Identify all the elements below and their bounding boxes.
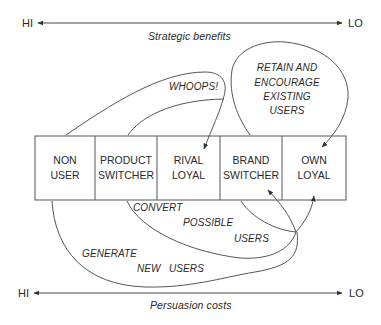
segment-line1: PRODUCT	[100, 153, 152, 168]
segment-line1: OWN	[301, 153, 327, 168]
segment-own-loyal: OWN LOYAL	[282, 136, 346, 200]
generate-label-2: NEW	[137, 263, 161, 274]
convert-from-brand	[241, 201, 296, 232]
segment-brand-switcher: BRAND SWITCHER	[220, 136, 282, 200]
retain-label-1: RETAIN AND	[250, 62, 324, 73]
generate-label-1: GENERATE	[82, 248, 137, 259]
segment-line1: RIVAL	[174, 153, 204, 168]
convert-label-3: USERS	[234, 233, 269, 244]
segment-rival-loyal: RIVAL LOYAL	[157, 136, 220, 200]
bottom-axis-title: Persuasion costs	[150, 299, 232, 311]
whoops-label: WHOOPS!	[169, 81, 218, 92]
top-axis-title: Strategic benefits	[148, 30, 231, 42]
segment-line2: SWITCHER	[98, 168, 154, 183]
segment-line2: SWITCHER	[223, 168, 279, 183]
segment-line1: NON	[53, 153, 76, 168]
convert-label-1: CONVERT	[133, 202, 182, 213]
segment-line2: LOYAL	[297, 168, 330, 183]
bottom-axis-lo-label: LO	[349, 287, 364, 299]
top-axis-hi-label: HI	[22, 17, 33, 29]
generate-label-3: USERS	[169, 263, 204, 274]
retain-label-3: EXISTING	[250, 91, 324, 102]
bottom-axis-hi-label: HI	[18, 287, 29, 299]
segment-non-user: NON USER	[35, 136, 95, 200]
top-axis-lo-label: LO	[348, 17, 363, 29]
retain-label-4: USERS	[250, 105, 324, 116]
convert-label-2: POSSIBLE	[183, 217, 233, 228]
segment-line2: LOYAL	[172, 168, 205, 183]
convert-arrow-to-own	[296, 196, 314, 232]
segment-product-switcher: PRODUCT SWITCHER	[95, 136, 157, 200]
generate-curve	[52, 201, 298, 287]
whoops-curve-inner	[128, 99, 224, 135]
segment-line2: USER	[50, 168, 79, 183]
retain-label-2: ENCOURAGE	[250, 77, 324, 88]
segment-line1: BRAND	[233, 153, 270, 168]
